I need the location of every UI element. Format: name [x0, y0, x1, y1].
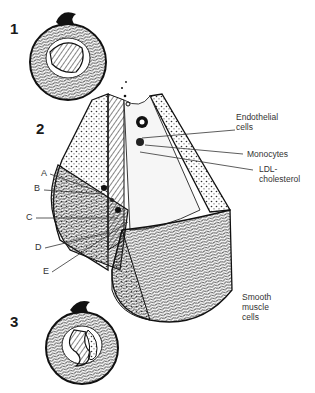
- label-endothelial-cells: Endothelial cells: [236, 112, 278, 132]
- letter-e: E: [43, 266, 49, 276]
- diagram-canvas: [0, 0, 315, 393]
- artery-cutaway-2: [51, 81, 232, 322]
- label-line: LDL-: [259, 164, 300, 174]
- label-monocytes: Monocytes: [247, 149, 288, 159]
- stage-number-1: 1: [10, 20, 18, 37]
- label-line: Smooth: [242, 292, 271, 302]
- label-line: cells: [236, 122, 278, 132]
- label-ldl-cholesterol: LDL- cholesterol: [259, 164, 300, 184]
- label-smooth-muscle-cells: Smooth muscle cells: [242, 292, 271, 322]
- artery-cross-section-3: [46, 301, 118, 384]
- letter-c: C: [26, 212, 33, 222]
- letter-a: A: [41, 168, 47, 178]
- label-line: cholesterol: [259, 174, 300, 184]
- stage-number-2: 2: [36, 120, 44, 137]
- stage-number-3: 3: [10, 313, 18, 330]
- label-line: cells: [242, 312, 271, 322]
- letter-b: B: [34, 183, 40, 193]
- label-line: muscle: [242, 302, 271, 312]
- artery-cross-section-1: [30, 12, 106, 100]
- letter-d: D: [35, 242, 42, 252]
- label-line: Endothelial: [236, 112, 278, 122]
